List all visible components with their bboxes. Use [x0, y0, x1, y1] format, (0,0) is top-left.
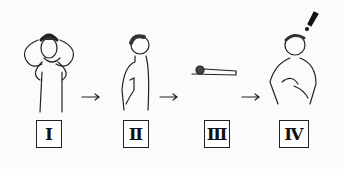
diagram-stage: I Ⅱ Ⅲ Ⅳ — [0, 0, 344, 169]
exclamation-icon — [308, 12, 318, 26]
arrow-icons — [82, 94, 259, 100]
figure-3-icon — [192, 66, 236, 75]
step-label-4: Ⅳ — [279, 120, 309, 148]
step-label-3: Ⅲ — [204, 120, 230, 148]
figure-1-icon — [25, 35, 74, 112]
step-label-2: Ⅱ — [123, 120, 149, 148]
figure-2-icon — [122, 36, 149, 110]
step-label-1: I — [36, 120, 62, 148]
figure-4-icon — [270, 35, 316, 104]
